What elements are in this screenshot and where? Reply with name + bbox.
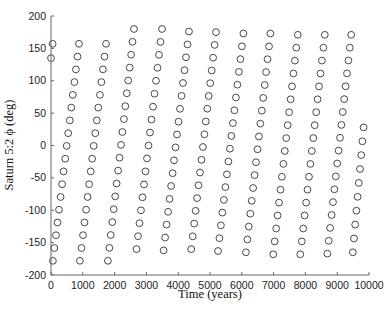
x-tick-label: 3000 <box>135 279 159 291</box>
data-point-marker <box>345 57 352 64</box>
data-point-marker <box>116 154 123 161</box>
data-point-marker <box>84 194 91 201</box>
data-point-marker <box>126 64 133 71</box>
data-point-marker <box>69 92 76 99</box>
data-point-marker <box>207 80 214 87</box>
data-point-marker <box>62 155 69 162</box>
data-point-marker <box>289 83 296 90</box>
data-point-marker <box>294 31 301 38</box>
data-point-marker <box>71 79 78 86</box>
data-point-marker <box>54 219 61 226</box>
data-point-marker <box>145 142 152 149</box>
data-point-marker <box>287 96 294 103</box>
data-point-marker <box>307 161 314 168</box>
data-point-marker <box>95 104 102 111</box>
data-point-marker <box>353 207 360 214</box>
data-point-marker <box>92 130 99 137</box>
data-point-marker <box>115 167 122 174</box>
data-point-marker <box>292 57 299 64</box>
data-point-marker <box>349 249 356 256</box>
data-point-marker <box>256 133 263 140</box>
y-tick-label: 150 <box>28 42 46 54</box>
data-point-marker <box>337 134 344 141</box>
data-point-marker <box>178 93 185 100</box>
data-point-marker <box>210 54 217 61</box>
data-point-marker <box>215 248 222 255</box>
data-point-marker <box>344 70 351 77</box>
data-point-marker <box>205 93 212 100</box>
data-point-marker <box>151 90 158 97</box>
data-point-marker <box>230 120 237 127</box>
data-point-marker <box>139 194 146 201</box>
scatter-chart: -200-150-100-50050100150200 010002000300… <box>0 0 392 321</box>
data-point-marker <box>148 116 155 123</box>
data-point-marker <box>110 206 117 213</box>
data-point-marker <box>121 116 128 123</box>
y-tick-label: -150 <box>25 236 46 248</box>
data-point-marker <box>251 172 258 179</box>
data-point-marker <box>341 96 348 103</box>
data-point-marker <box>177 105 184 112</box>
data-point-marker <box>334 160 341 167</box>
data-point-marker <box>195 182 202 189</box>
data-point-marker <box>147 129 154 136</box>
data-point-marker <box>328 212 335 219</box>
data-point-marker <box>200 144 207 151</box>
data-point-marker <box>297 251 304 258</box>
data-point-marker <box>261 82 268 89</box>
x-tick-label: 9000 <box>326 279 350 291</box>
data-point-marker <box>123 90 130 97</box>
data-point-marker <box>243 249 250 256</box>
data-point-marker <box>357 166 364 173</box>
data-point-marker <box>78 245 85 252</box>
data-point-marker <box>83 206 90 213</box>
data-point-marker <box>317 70 324 77</box>
data-point-marker <box>273 225 280 232</box>
data-point-marker <box>260 95 267 102</box>
data-point-marker <box>157 39 164 46</box>
data-point-marker <box>338 122 345 129</box>
data-point-marker <box>154 64 161 71</box>
x-tick-label: 1000 <box>71 279 95 291</box>
data-point-marker <box>73 66 80 73</box>
data-point-marker <box>138 207 145 214</box>
data-point-marker <box>247 210 254 217</box>
y-ticks: -200-150-100-50050100150200 <box>25 10 54 281</box>
data-point-marker <box>298 238 305 245</box>
data-point-marker <box>186 28 193 35</box>
data-point-marker <box>191 220 198 227</box>
data-point-marker <box>183 54 190 61</box>
data-point-marker <box>201 131 208 138</box>
data-point-marker <box>240 30 247 37</box>
data-point-marker <box>239 43 246 50</box>
data-point-marker <box>213 29 220 36</box>
data-point-marker <box>244 236 251 243</box>
data-point-marker <box>300 225 307 232</box>
data-point-marker <box>90 143 97 150</box>
data-point-marker <box>266 43 273 50</box>
data-point-marker <box>198 156 205 163</box>
data-point-marker <box>339 109 346 116</box>
data-point-marker <box>163 221 170 228</box>
data-point-marker <box>59 181 66 188</box>
data-point-marker <box>66 117 73 124</box>
data-point-marker <box>221 197 228 204</box>
data-point-marker <box>113 180 120 187</box>
data-point-marker <box>159 26 166 33</box>
x-tick-label: 8000 <box>294 279 318 291</box>
data-point-marker <box>358 152 365 159</box>
y-tick-label: -200 <box>25 269 46 281</box>
data-point-marker <box>100 66 107 73</box>
data-point-marker <box>277 186 284 193</box>
data-point-marker <box>321 31 328 38</box>
data-point-marker <box>248 197 255 204</box>
data-point-marker <box>313 109 320 116</box>
data-point-marker <box>65 130 72 137</box>
data-point-marker <box>51 245 58 252</box>
data-point-marker <box>325 237 332 244</box>
y-tick-label: -100 <box>25 204 46 216</box>
data-point-marker <box>133 246 140 253</box>
data-point-marker <box>320 44 327 51</box>
data-point-marker <box>310 135 317 142</box>
data-point-marker <box>112 193 119 200</box>
